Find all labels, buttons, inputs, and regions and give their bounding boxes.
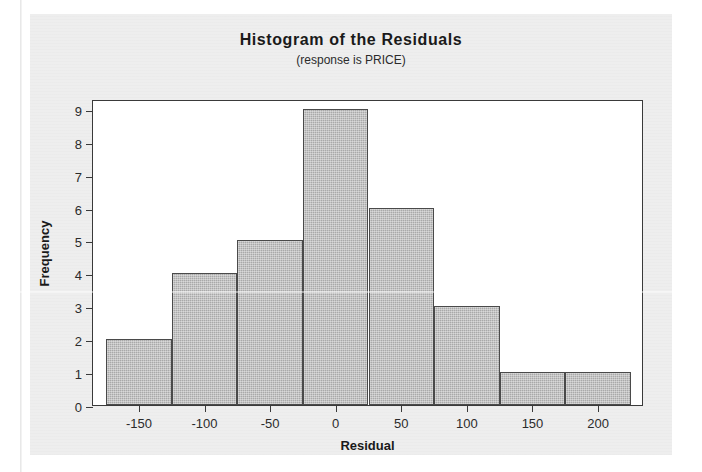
- y-axis-title-label: Frequency: [38, 220, 53, 286]
- y-axis-title: Frequency: [36, 100, 54, 406]
- y-axis-tick-mark: [86, 308, 93, 309]
- y-axis-tick-label: 7: [75, 169, 82, 184]
- histogram-bar: [106, 339, 172, 405]
- x-axis-tick-mark: [205, 405, 206, 412]
- y-axis-tick-mark: [86, 144, 93, 145]
- y-axis-tick-mark: [86, 341, 93, 342]
- x-axis-tick-label: 50: [394, 416, 408, 431]
- histogram-bar: [172, 273, 238, 405]
- x-axis-tick-label: -50: [261, 416, 280, 431]
- y-axis-tick-mark: [86, 275, 93, 276]
- y-axis-tick-label: 4: [75, 268, 82, 283]
- x-axis-tick-mark: [270, 405, 271, 412]
- y-axis-tick-label: 1: [75, 367, 82, 382]
- histogram-bar: [500, 372, 566, 405]
- chart-title: Histogram of the Residuals: [30, 30, 672, 50]
- histogram-bar: [303, 109, 369, 405]
- x-axis-tick-mark: [598, 405, 599, 412]
- y-axis-tick-mark: [86, 111, 93, 112]
- y-axis-tick-mark: [86, 177, 93, 178]
- chart-subtitle: (response is PRICE): [30, 52, 672, 69]
- x-axis-tick-mark: [336, 405, 337, 412]
- histogram-bar: [237, 240, 303, 405]
- x-axis-tick-mark: [532, 405, 533, 412]
- y-axis-tick-mark: [86, 210, 93, 211]
- y-axis-tick-mark: [86, 407, 93, 408]
- y-axis-tick-label: 9: [75, 103, 82, 118]
- y-axis-tick-mark: [86, 242, 93, 243]
- y-axis-tick-label: 5: [75, 235, 82, 250]
- histogram-bar: [565, 372, 631, 405]
- x-axis-tick-mark: [401, 405, 402, 412]
- x-axis-tick-label: -150: [126, 416, 152, 431]
- histogram-bar: [434, 306, 500, 405]
- x-axis-tick-label: 200: [587, 416, 609, 431]
- y-axis-tick-mark: [86, 374, 93, 375]
- y-axis-tick-label: 0: [75, 400, 82, 415]
- x-axis-tick-mark: [467, 405, 468, 412]
- x-axis-tick-label: 150: [522, 416, 544, 431]
- x-axis-tick-label: -100: [191, 416, 217, 431]
- histogram-bar: [369, 208, 435, 405]
- y-axis-tick-label: 6: [75, 202, 82, 217]
- figure-panel: Histogram of the Residuals (response is …: [30, 14, 672, 455]
- y-axis-tick-label: 8: [75, 136, 82, 151]
- histogram-screenshot: Histogram of the Residuals (response is …: [0, 0, 702, 472]
- y-axis-tick-label: 2: [75, 334, 82, 349]
- scan-artifact-line-secondary: [21, 0, 22, 472]
- y-axis-tick-label: 3: [75, 301, 82, 316]
- x-axis-tick-mark: [139, 405, 140, 412]
- x-axis-tick-label: 0: [332, 416, 339, 431]
- title-block: Histogram of the Residuals (response is …: [30, 30, 672, 69]
- x-axis-title: Residual: [92, 438, 643, 453]
- histogram-bars: [93, 101, 642, 405]
- x-axis-tick-label: 100: [456, 416, 478, 431]
- plot-area: 0123456789 -150-100-50050100150200: [92, 100, 643, 406]
